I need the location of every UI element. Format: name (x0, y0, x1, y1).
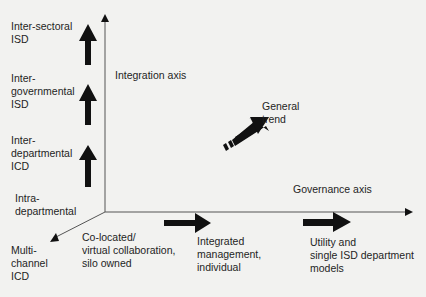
diagonal-axis-arrowhead (50, 233, 59, 242)
governance-axis-arrowhead (405, 208, 413, 216)
label-inter-departmental: Inter- departmental ICD (11, 134, 72, 173)
up-arrow-inter-sectoral (79, 24, 97, 65)
integration-axis-arrowhead (101, 14, 109, 22)
label-inter-sectoral: Inter-sectoral ISD (11, 20, 72, 46)
general-trend-label: General trend (262, 100, 299, 126)
up-arrow-inter-departmental (79, 145, 97, 187)
label-integrated-management: Integrated management, individual (197, 235, 261, 274)
label-utility-models: Utility and single ISD department models (310, 236, 414, 275)
up-arrow-inter-governmental (79, 84, 97, 125)
right-arrow-integrated-management (164, 213, 211, 233)
integration-axis-label: Integration axis (115, 69, 186, 82)
governance-axis-label: Governance axis (293, 183, 372, 196)
label-co-located: Co-located/ virtual collaboration, silo … (82, 231, 175, 270)
label-intra-departmental: Intra- departmental (15, 192, 76, 218)
label-multi-channel: Multi- channel ICD (11, 244, 48, 283)
right-arrow-utility-models (303, 212, 351, 232)
label-inter-governmental: Inter- governmental ISD (11, 72, 75, 111)
